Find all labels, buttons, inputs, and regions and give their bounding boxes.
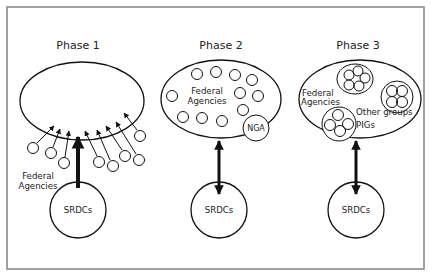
- phase-3-title: Phase 3: [336, 39, 379, 52]
- agency-node: [178, 112, 189, 123]
- agency-node: [217, 116, 228, 127]
- agency-node: [134, 155, 145, 166]
- agency-node: [108, 161, 119, 172]
- phase-1-federal-label: Federal: [22, 171, 54, 181]
- agency-node: [197, 113, 208, 124]
- phase-3-agencies-label: Agencies: [301, 97, 340, 107]
- diagram-canvas: Phase 1 Federal Agencies SRDCs: [0, 0, 432, 277]
- phase-1-ellipse: [20, 62, 144, 140]
- agency-node: [211, 67, 222, 78]
- phase-3-group-bottom: [322, 107, 356, 141]
- agency-node: [120, 151, 131, 162]
- agency-node: [167, 91, 178, 102]
- agency-node: [28, 143, 39, 154]
- phase-3-other-groups-label: Other groups: [356, 107, 413, 117]
- phase-1-title: Phase 1: [56, 39, 99, 52]
- phase-3-group-top: [337, 64, 373, 94]
- phase-2-title: Phase 2: [199, 39, 242, 52]
- phase-2-federal-label: Federal: [191, 86, 223, 96]
- phase-2-srdcs-label: SRDCs: [205, 205, 234, 215]
- phase-2-agencies-label: Agencies: [188, 96, 227, 106]
- phase-1-agencies-label: Agencies: [19, 181, 58, 191]
- agency-node: [59, 158, 70, 169]
- agency-node: [238, 105, 249, 116]
- agency-node: [247, 75, 258, 86]
- phase-3-pigs-label: PIGs: [356, 120, 375, 130]
- agency-node: [192, 69, 203, 80]
- agency-node: [46, 148, 57, 159]
- agency-node: [235, 88, 246, 99]
- agency-node: [135, 131, 146, 142]
- agency-node: [253, 91, 264, 102]
- phase-1-srdcs-label: SRDCs: [64, 205, 93, 215]
- agency-node: [94, 157, 105, 168]
- phase-3-srdcs-label: SRDCs: [342, 205, 371, 215]
- phase-2-nga-label: NGA: [247, 124, 265, 133]
- agency-node: [230, 70, 241, 81]
